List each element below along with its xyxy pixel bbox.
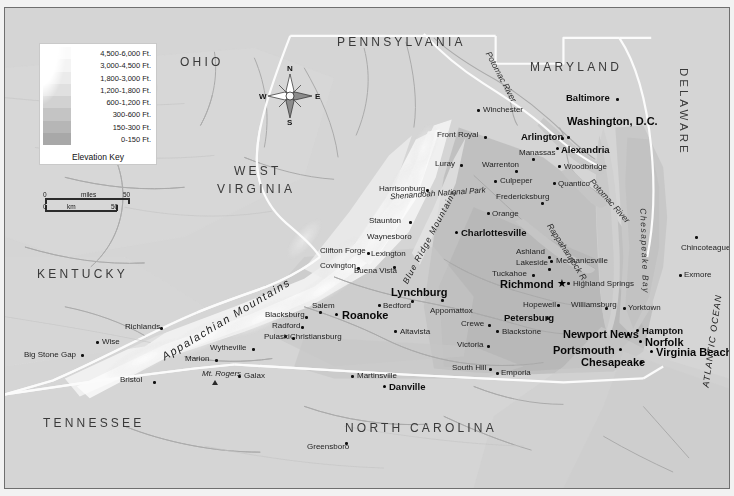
city-label-baltimore: Baltimore [566, 93, 610, 103]
state-label-delaware: DELAWARE [677, 68, 689, 156]
city-label-fredericksburg: Fredericksburg [496, 193, 549, 201]
city-dot-woodbridge [558, 165, 561, 168]
city-label-altavista: Altavista [400, 328, 430, 336]
city-label-charlottesville: Charlottesville [461, 228, 526, 238]
city-label-covington: Covington [320, 262, 356, 270]
city-label-orange: Orange [492, 210, 519, 218]
city-label-hampton: Hampton [642, 326, 683, 336]
capital-star-icon: ★ [557, 278, 567, 289]
city-dot-wytheville [252, 348, 255, 351]
compass-south-label: S [287, 118, 292, 127]
city-label-quantico: Quantico [558, 180, 590, 188]
legend-label-5: 300-600 Ft. [100, 109, 151, 121]
city-dot-baltimore [616, 98, 619, 101]
city-label-front-royal: Front Royal [437, 131, 478, 139]
scale-miles-line [45, 198, 129, 200]
legend-label-0: 4,500-6,000 Ft. [100, 48, 151, 60]
scale-km-label: km [67, 203, 76, 210]
city-label-tuckahoe: Tuckahoe [492, 270, 527, 278]
city-dot-orange [487, 212, 490, 215]
scale-miles-tick-right [128, 198, 130, 204]
city-label-martinsville: Martinsville [357, 372, 397, 380]
city-label-highland-springs: Highland Springs [573, 280, 634, 288]
city-dot-marion [215, 359, 218, 362]
city-dot-radford [301, 326, 304, 329]
city-label-lakeside: Lakeside [516, 259, 548, 267]
city-label-danville: Danville [389, 382, 425, 392]
scale-miles-zero: 0 [43, 191, 47, 198]
map-canvas: 4,500-6,000 Ft. 3,000-4,500 Ft. 1,800-3,… [0, 0, 734, 496]
city-dot-emporia [496, 372, 499, 375]
virginia-beach-text: Virginia Beach [656, 346, 730, 358]
city-label-wise: Wise [102, 338, 120, 346]
state-label-tennessee: TENNESSEE [43, 417, 145, 429]
capital-label-richmond: Richmond [500, 279, 554, 290]
compass-west-label: W [259, 92, 267, 101]
city-label-blackstone: Blackstone [502, 328, 541, 336]
city-dot-mechanicsville [550, 260, 553, 263]
city-dot-victoria [487, 345, 490, 348]
city-dot-petersburg [546, 317, 549, 320]
city-label-bristol: Bristol [120, 376, 142, 384]
city-dot-galax [238, 375, 241, 378]
city-label-staunton: Staunton [369, 217, 401, 225]
legend-label-4: 600-1,200 Ft. [100, 97, 151, 109]
city-label-ashland: Ashland [516, 248, 545, 256]
state-label-maryland: MARYLAND [530, 61, 622, 73]
city-dot-bedford [378, 304, 381, 307]
city-label-yorktown: Yorktown [628, 304, 661, 312]
city-label-washington-dc: Washington, D.C. [567, 115, 629, 129]
city-label-appomattox: Appomattox [430, 307, 473, 315]
city-label-woodbridge: Woodbridge [564, 163, 607, 171]
city-dot-ashland [548, 256, 551, 259]
city-dot-staunton [409, 221, 412, 224]
city-dot-lynchburg [411, 300, 414, 303]
city-label-christiansburg: Christiansburg [290, 333, 342, 341]
city-label-warrenton: Warrenton [482, 161, 519, 169]
city-dot-quantico [553, 182, 556, 185]
city-dot-lakeside [548, 268, 551, 271]
city-dot-highland-springs [567, 282, 570, 285]
legend-label-7: 0-150 Ft. [100, 134, 151, 146]
city-label-salem: Salem [312, 302, 335, 310]
compass-north-label: N [287, 64, 293, 73]
city-dot-manassas [532, 158, 535, 161]
legend-caption: Elevation Key [40, 152, 156, 162]
city-label-culpeper: Culpeper [500, 177, 532, 185]
city-dot-martinsville [351, 375, 354, 378]
city-label-emporia: Emporia [501, 369, 531, 377]
city-label-radford: Radford [272, 322, 300, 330]
city-dot-luray [460, 164, 463, 167]
state-label-west: WEST [234, 165, 281, 177]
city-label-south-hill: South Hill [452, 364, 486, 372]
city-dot-wise [96, 341, 99, 344]
washington-dc-text: Washington, D.C. [567, 115, 658, 127]
city-dot-yorktown [623, 307, 626, 310]
city-dot-clifton-forge [367, 252, 370, 255]
city-dot-richlands [160, 327, 163, 330]
legend-labels: 4,500-6,000 Ft. 3,000-4,500 Ft. 1,800-3,… [100, 48, 151, 146]
legend-label-1: 3,000-4,500 Ft. [100, 60, 151, 72]
city-dot-big-stone-gap [81, 354, 84, 357]
city-label-chesapeake: Chesapeake [581, 357, 645, 368]
city-dot-blacksburg [305, 316, 308, 319]
city-dot-salem [319, 311, 322, 314]
city-label-pulaski: Pulaski [264, 333, 290, 341]
city-dot-bristol [153, 381, 156, 384]
city-dot-pulaski [292, 337, 295, 340]
city-label-hopewell: Hopewell [523, 301, 556, 309]
city-label-crewe: Crewe [461, 320, 484, 328]
scale-km-max: 50 [111, 203, 118, 210]
city-label-mechanicsville: Mechanicsville [556, 257, 608, 265]
city-label-wytheville: Wytheville [210, 344, 246, 352]
city-label-victoria: Victoria [457, 341, 484, 349]
city-dot-warrenton [515, 170, 518, 173]
city-dot-fredericksburg [541, 202, 544, 205]
city-dot-crewe [488, 324, 491, 327]
city-dot-culpeper [494, 180, 497, 183]
city-label-williamsburg: Williamsburg [571, 301, 617, 309]
city-label-buena-vista: Buena Vista [354, 267, 397, 275]
city-label-exmore: Exmore [684, 271, 712, 279]
state-label-ohio: OHIO [180, 56, 223, 68]
city-label-manassas: Manassas [519, 149, 555, 157]
